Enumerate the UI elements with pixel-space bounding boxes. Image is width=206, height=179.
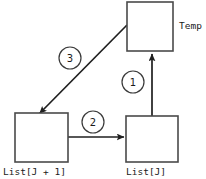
step-badge-1-label: 1 (130, 77, 136, 88)
step-badge-3-label: 3 (67, 53, 73, 64)
diagram-canvas: Temp List[J + 1] List[J] 3 1 2 (0, 0, 206, 179)
step-badge-2-label: 2 (90, 117, 96, 128)
box-list-j-label: List[J] (126, 166, 166, 177)
box-temp (127, 2, 173, 51)
box-list-j-plus-1 (15, 113, 68, 162)
box-temp-label: Temp (179, 20, 202, 31)
box-list-j-plus-1-label: List[J + 1] (3, 166, 66, 177)
swap-diagram: Temp List[J + 1] List[J] 3 1 2 (0, 0, 206, 179)
arrow-3-temp-to-list-j-plus-1 (40, 25, 128, 114)
box-list-j (126, 116, 178, 162)
